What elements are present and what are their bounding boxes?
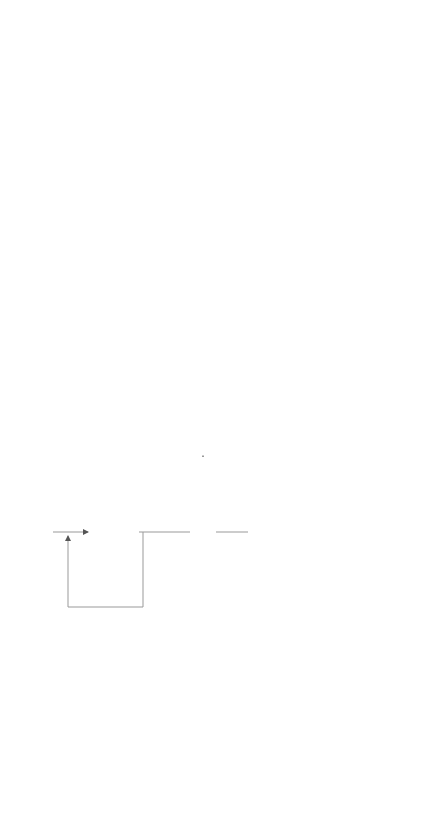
- connector-lines: [0, 0, 447, 823]
- flowchart: [0, 0, 447, 823]
